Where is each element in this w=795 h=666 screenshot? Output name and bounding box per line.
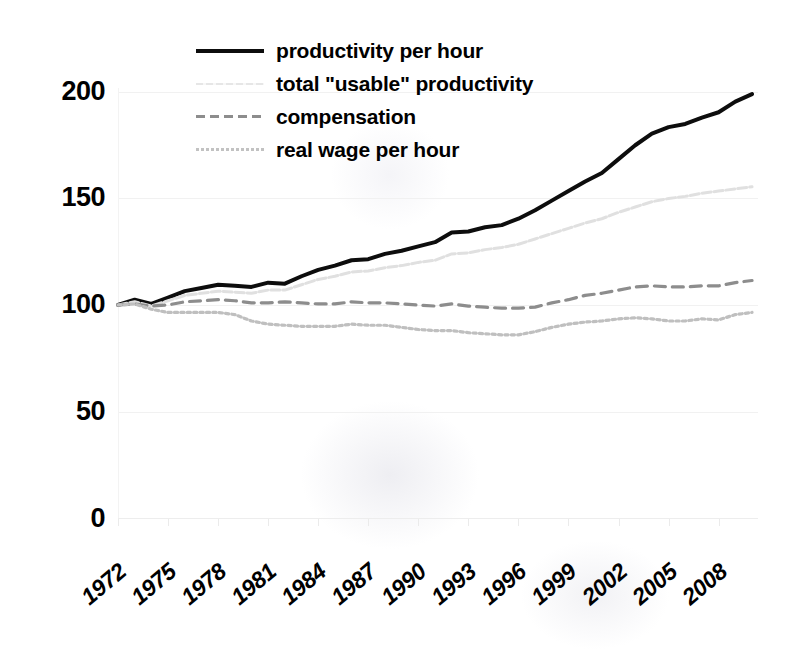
- x-tick-mark-1987: [368, 519, 369, 526]
- x-tick-mark-1996: [518, 519, 519, 526]
- x-tick-mark-1993: [468, 519, 469, 526]
- x-tick-mark-1999: [568, 519, 569, 526]
- x-tick-mark-1972: [118, 519, 119, 526]
- x-tick-mark-1975: [168, 519, 169, 526]
- x-tick-mark-2002: [619, 519, 620, 526]
- x-tick-mark-1990: [418, 519, 419, 526]
- x-tick-mark-1984: [318, 519, 319, 526]
- x-tick-mark-1981: [268, 519, 269, 526]
- series-line-real-wage-per-hour: [118, 304, 752, 335]
- x-tick-mark-2008: [719, 519, 720, 526]
- series-line-total-usable-productivity: [118, 187, 752, 306]
- x-tick-mark-1978: [218, 519, 219, 526]
- x-tick-mark-2005: [669, 519, 670, 526]
- chart-container: 200 150 100 50 0 productivity per hour t…: [0, 0, 795, 666]
